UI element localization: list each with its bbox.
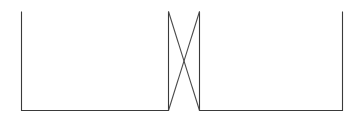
left-rectangle xyxy=(22,12,169,111)
right-rectangle xyxy=(200,12,343,111)
figure-svg xyxy=(0,0,361,121)
diagram-canvas xyxy=(0,0,361,121)
